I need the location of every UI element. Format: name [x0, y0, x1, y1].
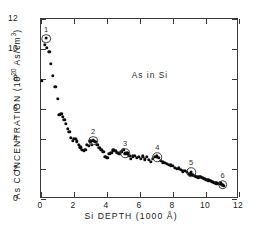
x-tick-top [107, 19, 108, 24]
plot-area: As in Si 123456 [40, 18, 238, 198]
x-tick-label: 12 [233, 200, 243, 210]
reference-marker-4 [153, 152, 163, 162]
x-tick-label: 10 [200, 200, 210, 210]
data-point [106, 156, 109, 159]
y-tick-right [232, 169, 237, 170]
x-tick [107, 192, 108, 197]
data-point [53, 85, 56, 88]
data-point [48, 50, 51, 53]
reference-marker-label-3: 3 [123, 139, 127, 148]
data-point [84, 148, 87, 151]
reference-marker-label-2: 2 [91, 127, 95, 136]
data-point [40, 79, 43, 82]
x-tick [41, 192, 42, 197]
y-tick [41, 109, 46, 110]
data-point [45, 46, 48, 49]
x-tick-top [140, 19, 141, 24]
data-point [102, 150, 105, 153]
y-tick-right [232, 49, 237, 50]
y-tick [41, 49, 46, 50]
x-tick [206, 192, 207, 197]
plot-annotation: As in Si [132, 70, 168, 80]
reference-marker-label-6: 6 [220, 171, 224, 180]
reference-marker-5 [186, 167, 196, 177]
x-tick [173, 192, 174, 197]
x-tick [140, 192, 141, 197]
y-tick-right [232, 109, 237, 110]
x-tick-top [206, 19, 207, 24]
reference-marker-label-5: 5 [189, 158, 193, 167]
data-point [63, 118, 66, 121]
reference-marker-label-4: 4 [155, 143, 159, 152]
reference-marker-3 [120, 148, 130, 158]
data-point [149, 160, 152, 163]
data-point [49, 62, 52, 65]
x-tick [74, 192, 75, 197]
data-point [68, 130, 71, 133]
reference-marker-1 [41, 34, 51, 44]
reference-marker-6 [218, 180, 228, 190]
x-tick-top [239, 19, 240, 24]
x-tick-label: 2 [70, 200, 75, 210]
x-axis-title: Si DEPTH (1000 Å) [0, 211, 262, 221]
reference-marker-label-1: 1 [44, 25, 48, 34]
y-tick [41, 19, 46, 20]
x-tick [239, 192, 240, 197]
y-tick-right [232, 139, 237, 140]
y-tick [41, 139, 46, 140]
data-point [56, 97, 59, 100]
data-point [64, 122, 67, 125]
x-tick-top [74, 19, 75, 24]
x-tick-top [173, 19, 174, 24]
x-tick-label: 8 [169, 200, 174, 210]
y-tick-right [232, 79, 237, 80]
data-point [51, 74, 54, 77]
figure: As in Si 123456 024681012 024681012 Si D… [0, 0, 262, 231]
x-tick-label: 6 [136, 200, 141, 210]
reference-marker-2 [88, 136, 98, 146]
y-tick-right [232, 19, 237, 20]
x-tick-label: 0 [37, 200, 42, 210]
x-tick-label: 4 [103, 200, 108, 210]
y-tick [41, 169, 46, 170]
y-axis-title: As CONCENTRATION (1020 As/cm3) [10, 19, 22, 209]
